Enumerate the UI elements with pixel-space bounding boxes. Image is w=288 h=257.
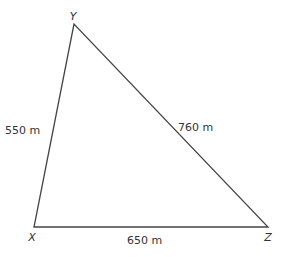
side-label-yz: 760 m xyxy=(178,121,213,134)
triangle-xyz xyxy=(34,24,268,227)
vertex-label-z: Z xyxy=(263,231,272,244)
side-label-xz: 650 m xyxy=(127,234,162,247)
side-label-xy: 550 m xyxy=(5,124,40,137)
vertex-label-x: X xyxy=(27,231,36,244)
vertex-label-y: Y xyxy=(70,10,78,23)
triangle-diagram: Y X Z 550 m 760 m 650 m xyxy=(0,0,288,257)
